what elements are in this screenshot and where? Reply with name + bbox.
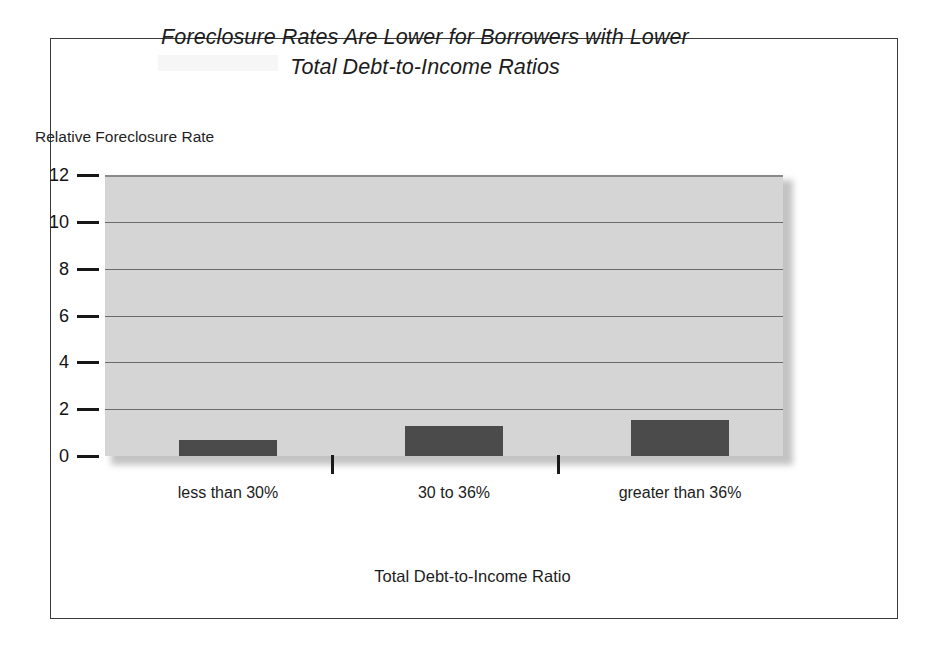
y-tick-mark-10 (77, 221, 99, 224)
x-category-label-3: greater than 36% (567, 484, 793, 502)
y-axis-title: Relative Foreclosure Rate (35, 128, 214, 146)
y-tick-mark-2 (77, 408, 99, 411)
y-tick-mark-12 (77, 174, 99, 177)
gridline-8 (105, 269, 783, 270)
y-tick-mark-6 (77, 315, 99, 318)
y-tick-mark-8 (77, 268, 99, 271)
gridline-10 (105, 222, 783, 223)
bar-3 (631, 420, 729, 456)
y-tick-label-10: 10 (35, 213, 69, 231)
gridline-2 (105, 409, 783, 410)
y-tick-mark-0 (77, 455, 99, 458)
chart-title-line-2: Total Debt-to-Income Ratios (60, 52, 790, 82)
x-category-label-2: 30 to 36% (341, 484, 567, 502)
x-separator-tick-1 (331, 455, 334, 474)
chart-title: Foreclosure Rates Are Lower for Borrower… (60, 22, 790, 82)
x-separator-tick-2 (557, 455, 560, 474)
chart-title-line-1: Foreclosure Rates Are Lower for Borrower… (60, 22, 790, 52)
y-tick-label-2: 2 (35, 400, 69, 418)
plot-top-edge (105, 175, 783, 177)
y-tick-label-12: 12 (35, 166, 69, 184)
gridline-4 (105, 362, 783, 363)
gridline-6 (105, 316, 783, 317)
y-tick-mark-4 (77, 361, 99, 364)
plot-area (105, 175, 783, 456)
bar-2 (405, 426, 503, 456)
y-tick-label-6: 6 (35, 307, 69, 325)
y-tick-label-8: 8 (35, 260, 69, 278)
bar-1 (179, 440, 277, 456)
y-tick-label-4: 4 (35, 353, 69, 371)
x-axis-title: Total Debt-to-Income Ratio (0, 567, 945, 586)
x-category-label-1: less than 30% (115, 484, 341, 502)
y-tick-label-0: 0 (35, 447, 69, 465)
